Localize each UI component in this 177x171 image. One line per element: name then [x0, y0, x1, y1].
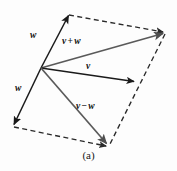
dashed-edge-top [69, 15, 163, 32]
vector-v-plus-w [41, 34, 163, 69]
label-w-upper-text: w [30, 30, 37, 40]
label-w-upper: w [30, 31, 37, 41]
vector-diagram-svg [0, 0, 177, 171]
label-v-minus-w-operand-left: v [76, 101, 81, 111]
dashed-edge-right [110, 34, 165, 144]
label-v-plus-w: v+w [62, 37, 81, 47]
figure-caption-text: (a) [82, 149, 94, 161]
label-v-plus-w-operand-left: v [62, 36, 67, 46]
label-v: v [86, 62, 91, 72]
label-v-minus-w-operand-right: w [88, 101, 95, 111]
label-v-plus-w-operand-right: w [74, 36, 81, 46]
figure-caption: (a) [0, 150, 177, 161]
vector-v-minus-w [41, 68, 107, 144]
label-w-lower-text: w [15, 83, 22, 93]
label-v-text: v [86, 61, 91, 71]
label-v-minus-w: v−w [76, 102, 95, 112]
vector-w-lower [14, 68, 41, 125]
label-w-lower: w [15, 84, 22, 94]
dashed-edge-bottom [14, 127, 106, 146]
vector-parallelogram-figure: w w v+w v v−w (a) [0, 0, 177, 171]
